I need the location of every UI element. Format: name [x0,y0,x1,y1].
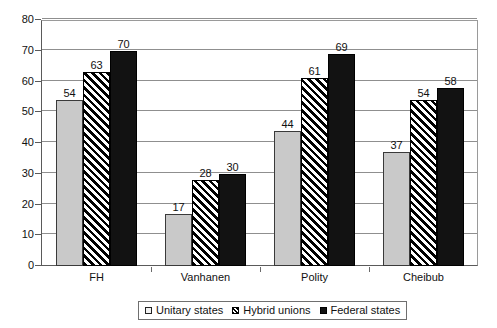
legend-item-label: Unitary states [156,305,223,316]
x-axis-tick-mark [151,267,152,272]
bar-federal-polity[interactable]: 69 [328,54,355,266]
bar-value-label: 63 [90,60,102,71]
x-axis-tick-mark [369,267,370,272]
bar-value-label: 28 [199,168,211,179]
bar-unitary-vanhanen[interactable]: 17 [165,214,192,266]
x-axis-tick-mark [260,267,261,272]
bar-unitary-fh[interactable]: 54 [56,100,83,266]
bar-group-fh: 546370 [56,20,137,266]
bar-federal-vanhanen[interactable]: 30 [219,174,246,266]
bar-federal-cheibub[interactable]: 58 [437,88,464,266]
legend-item-label: Hybrid unions [243,305,310,316]
bar-unitary-cheibub[interactable]: 37 [383,152,410,266]
bar-hybrid-cheibub[interactable]: 54 [410,100,437,266]
bar-value-label: 58 [444,76,456,87]
legend-item-label: Federal states [331,305,401,316]
black-square-icon [320,307,327,314]
bar-hybrid-vanhanen[interactable]: 28 [192,180,219,266]
bar-value-label: 69 [335,42,347,53]
x-axis-label-fh: FH [42,271,151,284]
bar-value-label: 61 [308,66,320,77]
bar-value-label: 44 [281,119,293,130]
x-axis-labels: FHVanhanenPolityCheibub [42,271,478,287]
bar-group-polity: 446169 [274,20,355,266]
x-axis-label-cheibub: Cheibub [369,271,478,284]
bar-value-label: 30 [226,162,238,173]
x-axis-label-vanhanen: Vanhanen [151,271,260,284]
bar-value-label: 54 [417,88,429,99]
x-axis-label-polity: Polity [260,271,369,284]
bar-federal-fh[interactable]: 70 [110,51,137,266]
bar-group-vanhanen: 172830 [165,20,246,266]
bar-value-label: 54 [63,88,75,99]
bar-value-label: 37 [390,140,402,151]
bar-chart: 01020304050607080 5463701728304461693754… [0,0,497,328]
y-axis-ticks [0,20,41,266]
bar-hybrid-fh[interactable]: 63 [83,72,110,266]
bar-group-cheibub: 375458 [383,20,464,266]
gridline [42,18,477,19]
legend-item-unitary[interactable]: Unitary states [145,305,223,316]
chart-legend: Unitary statesHybrid unionsFederal state… [138,301,407,320]
bar-hybrid-polity[interactable]: 61 [301,78,328,266]
bar-value-label: 70 [117,39,129,50]
hatched-square-icon [232,307,239,314]
bar-unitary-polity[interactable]: 44 [274,131,301,266]
bar-value-label: 17 [172,202,184,213]
legend-item-hybrid[interactable]: Hybrid unions [232,305,310,316]
light-gray-square-icon [145,307,152,314]
bars-layer: 546370172830446169375458 [42,20,478,266]
legend-item-federal[interactable]: Federal states [320,305,401,316]
